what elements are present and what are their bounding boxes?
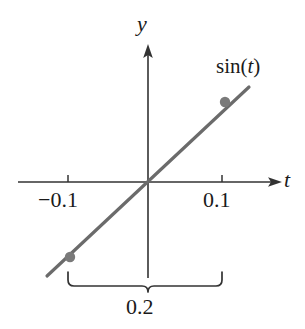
- x-tick-label-negative: −0.1: [38, 189, 78, 211]
- sin-t-linear-approximation-figure: y t sin(t) −0.1 0.1 0.2: [0, 0, 305, 329]
- curve-label-suffix: ): [253, 54, 260, 78]
- x-axis-ticks: [68, 175, 222, 182]
- curve-label: sin(t): [216, 56, 260, 77]
- y-axis: [143, 44, 153, 278]
- x-axis-label: t: [284, 169, 290, 191]
- y-axis-label: y: [137, 13, 147, 35]
- data-point-positive: [220, 97, 230, 107]
- data-point-negative: [65, 252, 75, 262]
- figure-canvas: [0, 0, 305, 329]
- curve-label-prefix: sin(: [216, 54, 248, 78]
- span-brace-label: 0.2: [126, 296, 154, 318]
- x-tick-label-positive: 0.1: [203, 189, 231, 211]
- span-brace: [68, 272, 222, 292]
